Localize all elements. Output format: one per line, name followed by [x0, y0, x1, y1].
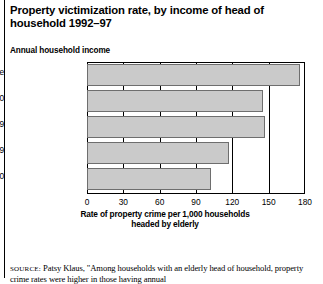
category-label: $15,000–$24,999 — [0, 145, 4, 155]
plot-area — [87, 62, 305, 194]
bar — [87, 90, 263, 112]
x-axis-title-line2: headed by elderly — [30, 220, 300, 230]
chart-figure: Property victimization rate, by income o… — [10, 0, 315, 278]
left-margin-rule — [4, 0, 5, 278]
bar — [87, 116, 265, 138]
x-tick-label: 90 — [184, 197, 208, 207]
source-note: SOURCE: Patsy Klaus, "Among households w… — [10, 263, 310, 284]
x-tick-label: 180 — [293, 197, 317, 207]
category-label: Under $15,000 — [0, 171, 4, 181]
x-tick-label: 120 — [220, 197, 244, 207]
x-axis-title: Rate of property crime per 1,000 househo… — [30, 210, 300, 229]
category-label: $25,000–$34,999 — [0, 119, 4, 129]
category-labels: $50,000 or more $35,000–$49,000 $25,000–… — [0, 62, 4, 194]
x-tick-label: 150 — [257, 197, 281, 207]
x-axis-tick-labels: 0 30 60 90 120 150 180 — [87, 197, 305, 209]
y-axis-group-title: Annual household income — [10, 46, 110, 55]
bar — [87, 64, 300, 86]
category-label: $35,000–$49,000 — [0, 93, 4, 103]
x-tick-label: 60 — [148, 197, 172, 207]
bar — [87, 168, 211, 190]
category-label: $50,000 or more — [0, 67, 4, 77]
x-tick-label: 30 — [111, 197, 135, 207]
chart-title: Property victimization rate, by income o… — [10, 4, 310, 30]
x-tick-label: 0 — [75, 197, 99, 207]
source-text: Patsy Klaus, "Among households with an e… — [41, 263, 234, 273]
source-label: SOURCE: — [10, 265, 41, 273]
bar — [87, 142, 229, 164]
